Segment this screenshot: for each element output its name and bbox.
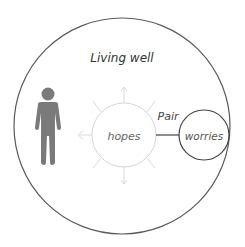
diagram-graphics [0, 0, 245, 247]
hopes-label: hopes [107, 130, 140, 143]
living-well-diagram: Living well hopes Pair worries [0, 0, 245, 247]
pair-label: Pair [158, 110, 179, 123]
worries-label: worries [185, 130, 224, 142]
diagram-title: Living well [90, 51, 153, 65]
person-icon [35, 88, 61, 166]
